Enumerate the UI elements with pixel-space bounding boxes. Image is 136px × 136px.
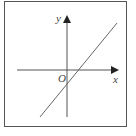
coordinate-plane: x y O: [0, 0, 136, 136]
origin-label: O: [58, 72, 66, 84]
y-axis-label: y: [55, 12, 61, 24]
x-axis-label: x: [112, 73, 118, 85]
